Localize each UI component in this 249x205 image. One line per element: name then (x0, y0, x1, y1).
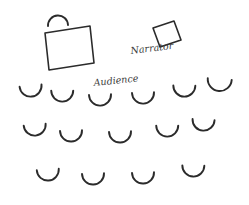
presenter-table (45, 26, 94, 70)
sketch-canvas: Narrator Audience (0, 0, 249, 205)
room-layout-sketch: Narrator Audience (0, 0, 249, 205)
